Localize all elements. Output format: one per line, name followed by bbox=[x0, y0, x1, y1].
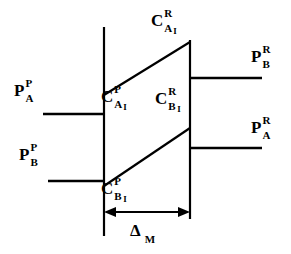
label-delta-M: ΔM bbox=[130, 222, 155, 242]
label-C-P-A-I-sup: P bbox=[114, 84, 121, 95]
label-C-R-A-I-sub: A bbox=[164, 23, 172, 34]
diagram-canvas: CRAI CPAI CRBI CPBI PPA PPB PRB PRA ΔM bbox=[0, 0, 291, 254]
label-C-R-A-I-base: C bbox=[151, 11, 163, 30]
label-P-R-B: PRB bbox=[251, 48, 261, 65]
label-C-P-B-I-sub: B bbox=[114, 191, 121, 202]
label-P-R-A-base: P bbox=[251, 118, 261, 137]
dimension-arrow bbox=[104, 207, 190, 217]
label-P-R-A-sup: R bbox=[262, 115, 270, 126]
label-C-P-A-I-sub2: I bbox=[123, 103, 127, 112]
label-C-R-A-I-sup: R bbox=[164, 8, 172, 19]
diagram-lines bbox=[0, 0, 291, 254]
label-P-P-B: PPB bbox=[19, 146, 29, 163]
label-P-R-A-sub: A bbox=[262, 130, 270, 141]
label-C-R-A-I-sub2: I bbox=[173, 27, 177, 36]
label-P-P-A-base: P bbox=[14, 81, 24, 100]
label-P-R-B-sub: B bbox=[262, 59, 269, 70]
label-P-P-A-sup: P bbox=[25, 78, 32, 89]
label-C-R-B-I-sub2: I bbox=[177, 105, 181, 114]
label-C-P-A-I-base: C bbox=[101, 87, 113, 106]
label-C-P-A-I-sub: A bbox=[114, 99, 122, 110]
label-C-P-B-I-sup: P bbox=[114, 176, 121, 187]
label-C-R-A-I: CRAI bbox=[151, 12, 163, 29]
label-C-P-B-I-sub2: I bbox=[123, 195, 127, 204]
label-P-P-B-sup: P bbox=[30, 142, 37, 153]
label-C-P-B-I: CPBI bbox=[101, 180, 113, 197]
label-P-R-B-base: P bbox=[251, 47, 261, 66]
label-P-P-B-sub: B bbox=[30, 157, 37, 168]
label-P-P-B-base: P bbox=[19, 145, 29, 164]
label-P-P-A: PPA bbox=[14, 82, 24, 99]
label-C-P-A-I: CPAI bbox=[101, 88, 113, 105]
label-P-R-B-sup: R bbox=[262, 44, 270, 55]
label-delta-M-sub: M bbox=[145, 233, 155, 245]
label-P-P-A-sub: A bbox=[25, 93, 33, 104]
label-C-R-B-I-sup: R bbox=[168, 86, 176, 97]
label-C-R-B-I-base: C bbox=[155, 89, 167, 108]
label-delta-M-base: Δ bbox=[130, 221, 141, 240]
label-P-R-A: PRA bbox=[251, 119, 261, 136]
label-C-P-B-I-base: C bbox=[101, 179, 113, 198]
label-C-R-B-I-sub: B bbox=[168, 101, 175, 112]
label-C-R-B-I: CRBI bbox=[155, 90, 167, 107]
